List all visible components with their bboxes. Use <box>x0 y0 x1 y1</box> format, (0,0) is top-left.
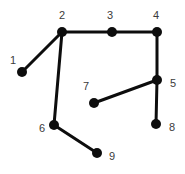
graph-node-3[interactable] <box>107 27 117 37</box>
graph-node-1[interactable] <box>17 67 27 77</box>
graph-node-label-7: 7 <box>83 81 89 92</box>
graph-node-label-3: 3 <box>107 10 113 21</box>
graph-node-8[interactable] <box>151 119 161 129</box>
graph-edge <box>156 80 157 124</box>
graph-node-label-8: 8 <box>169 122 175 133</box>
graph-node-7[interactable] <box>89 98 99 108</box>
graph-node-2[interactable] <box>57 27 67 37</box>
graph-node-9[interactable] <box>92 148 102 158</box>
graph-edge <box>94 80 157 103</box>
graph-node-label-4: 4 <box>153 10 159 21</box>
graph-edge <box>22 32 62 72</box>
graph-node-5[interactable] <box>152 75 162 85</box>
edge-layer <box>22 32 157 153</box>
graph-node-6[interactable] <box>49 120 59 130</box>
graph-node-4[interactable] <box>152 27 162 37</box>
graph-node-label-5: 5 <box>170 78 176 89</box>
node-layer <box>17 27 162 158</box>
graph-edge <box>54 32 62 125</box>
graph-figure: 123456789 <box>0 0 185 174</box>
graph-node-label-1: 1 <box>10 55 16 66</box>
graph-node-label-6: 6 <box>39 123 45 134</box>
graph-edge <box>54 125 97 153</box>
graph-canvas <box>0 0 185 174</box>
graph-node-label-2: 2 <box>59 10 65 21</box>
graph-node-label-9: 9 <box>109 151 115 162</box>
